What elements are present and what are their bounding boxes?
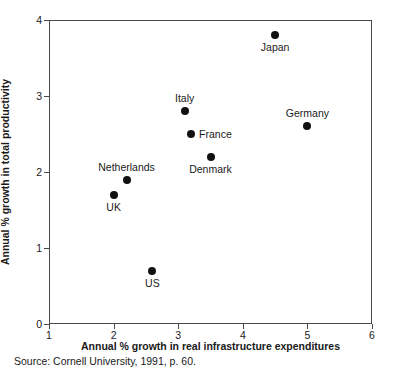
- y-tick-label-4: 4: [30, 15, 42, 26]
- y-tick-1: [44, 248, 49, 249]
- point-label-germany: Germany: [286, 108, 329, 119]
- y-tick-3: [44, 96, 49, 97]
- data-point-germany: [303, 122, 311, 130]
- y-tick-label-3: 3: [30, 91, 42, 102]
- x-tick-label-5: 5: [304, 330, 310, 341]
- scatter-chart-figure: JapanItalyGermanyFranceDenmarkNetherland…: [0, 0, 396, 376]
- y-tick-2: [44, 172, 49, 173]
- x-tick-label-2: 2: [111, 330, 117, 341]
- point-label-france: France: [199, 129, 232, 140]
- x-tick-label-1: 1: [46, 330, 52, 341]
- data-point-denmark: [207, 153, 215, 161]
- y-tick-label-2: 2: [30, 167, 42, 178]
- x-axis-title: Annual % growth in real infrastructure e…: [49, 341, 372, 352]
- source-note: Source: Cornell University, 1991, p. 60.: [14, 356, 196, 367]
- y-tick-0: [44, 324, 49, 325]
- point-label-italy: Italy: [175, 93, 194, 104]
- data-point-italy: [181, 107, 189, 115]
- point-label-denmark: Denmark: [189, 164, 232, 175]
- point-label-uk: UK: [106, 202, 121, 213]
- data-point-layer: JapanItalyGermanyFranceDenmarkNetherland…: [49, 20, 372, 324]
- y-tick-label-1: 1: [30, 243, 42, 254]
- data-point-us: [148, 267, 156, 275]
- x-tick-label-4: 4: [240, 330, 246, 341]
- point-label-us: US: [145, 278, 160, 289]
- data-point-france: [187, 130, 195, 138]
- data-point-uk: [110, 191, 118, 199]
- y-tick-4: [44, 20, 49, 21]
- y-axis-title: Annual % growth in total productivity: [0, 20, 16, 324]
- x-tick-label-6: 6: [369, 330, 375, 341]
- point-label-netherlands: Netherlands: [98, 161, 155, 172]
- y-tick-label-0: 0: [30, 319, 42, 330]
- x-tick-label-3: 3: [175, 330, 181, 341]
- point-label-japan: Japan: [261, 42, 290, 53]
- data-point-netherlands: [123, 176, 131, 184]
- data-point-japan: [271, 31, 279, 39]
